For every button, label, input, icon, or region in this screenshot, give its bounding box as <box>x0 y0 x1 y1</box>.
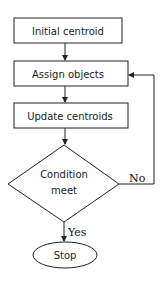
node-stop: Stop <box>33 242 97 268</box>
node-update-centroids: Update centroids <box>14 103 128 128</box>
node-condition-line2: meet <box>51 185 77 196</box>
node-stop-label: Stop <box>54 250 77 261</box>
node-condition-meet: Condition meet <box>8 145 119 222</box>
flowchart: Initial centroid Assign objects Update c… <box>0 0 165 284</box>
edge-label-no: No <box>129 172 146 185</box>
edge-label-yes: Yes <box>67 226 87 239</box>
node-condition-line1: Condition <box>40 169 88 180</box>
node-assign-objects: Assign objects <box>14 61 128 86</box>
arrow-no-loop-to-assign <box>119 75 154 184</box>
node-assign-objects-label: Assign objects <box>32 69 104 80</box>
node-update-centroids-label: Update centroids <box>27 111 113 122</box>
node-initial-centroid: Initial centroid <box>14 18 122 43</box>
node-initial-centroid-label: Initial centroid <box>32 26 104 37</box>
